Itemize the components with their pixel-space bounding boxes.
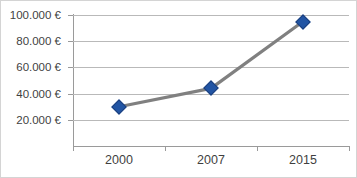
line-chart-figure: 20.000 €40.000 €60.000 €80.000 €100.000 … <box>0 0 357 178</box>
